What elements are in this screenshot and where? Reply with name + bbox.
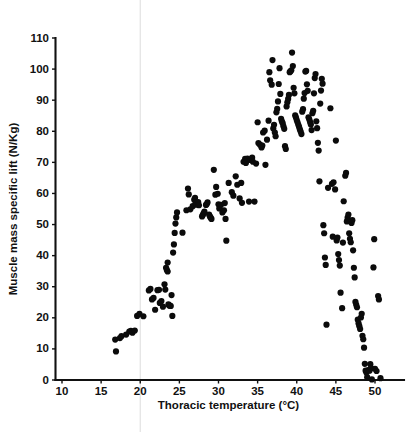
data-point [377,375,383,381]
data-point [165,259,171,265]
data-point [275,98,281,104]
y-tick-label: 90 [36,94,49,106]
data-point [264,137,270,143]
x-tick-label: 25 [173,385,186,397]
data-point [185,185,191,191]
data-point [303,68,309,74]
data-point [313,118,319,124]
data-point [340,239,346,245]
data-point [152,307,158,313]
data-point [274,106,280,112]
data-point [337,262,343,268]
data-point [298,131,304,137]
data-point [291,90,297,96]
data-point [169,313,175,319]
data-point [196,202,202,208]
data-point [315,140,321,146]
data-point [204,199,210,205]
data-point [265,118,271,124]
data-point [351,265,357,271]
data-point [271,122,277,128]
y-tick-label: 60 [36,187,49,199]
data-point [215,191,221,197]
scatter-plot-figure: 0102030405060708090100110 10152025303540… [0,0,419,432]
y-axis-tick-labels: 0102030405060708090100110 [30,32,49,386]
data-point [246,198,252,204]
data-point [327,105,333,111]
data-point [305,88,311,94]
data-point [323,322,329,328]
data-point [283,146,289,152]
data-point [316,178,322,184]
data-point [226,180,232,186]
data-point [223,238,229,244]
data-point [332,186,338,192]
data-point [160,304,166,310]
data-point [350,247,356,253]
data-point [113,348,119,354]
data-point [251,198,257,204]
data-point [360,336,366,342]
data-point [269,82,275,88]
data-point [222,216,228,222]
data-point [320,222,326,228]
data-point [354,304,360,310]
data-point [316,147,322,153]
data-point [168,303,174,309]
data-point [304,81,310,87]
x-axis-title: Thoracic temperature (°C) [158,399,300,411]
data-point [309,127,315,133]
data-point [318,87,324,93]
data-point [346,230,352,236]
x-tick-label: 30 [212,385,225,397]
y-tick-label: 80 [36,125,49,137]
data-point [336,257,342,263]
data-point [289,50,295,56]
x-axis-tick-labels: 101520253035404550 [56,385,382,397]
data-point [147,286,153,292]
data-point [255,119,261,125]
data-point [239,200,245,206]
data-point [312,71,318,77]
data-point [132,327,138,333]
data-point [262,162,268,168]
data-point [361,345,367,351]
data-point [281,126,287,132]
data-point [262,128,268,134]
data-point [335,251,341,257]
y-tick-label: 30 [36,280,49,292]
y-tick-label: 100 [30,63,49,75]
data-point [370,264,376,270]
data-point [259,142,265,148]
x-tick-label: 45 [329,385,342,397]
data-point [222,200,228,206]
data-point [186,191,192,197]
data-point [330,234,336,240]
data-point [321,230,327,236]
data-point [348,239,354,245]
data-point [156,287,162,293]
data-point [158,298,164,304]
data-point [171,241,177,247]
y-tick-label: 70 [36,156,49,168]
data-point [362,361,368,367]
y-tick-label: 110 [30,32,49,44]
data-points [112,50,383,383]
data-point [162,286,168,292]
data-point [273,133,279,139]
data-point [311,90,317,96]
data-point [373,368,379,374]
plot-canvas: 0102030405060708090100110 10152025303540… [0,0,419,432]
data-point [369,376,375,382]
x-tick-label: 15 [95,385,108,397]
data-point [352,274,358,280]
axes [56,38,405,380]
data-point [290,63,296,69]
data-point [317,101,323,107]
y-tick-label: 50 [36,218,49,230]
data-point [276,65,282,71]
data-point [211,167,217,173]
y-tick-label: 40 [36,249,49,261]
x-tick-label: 50 [369,385,382,397]
data-point [314,125,320,131]
